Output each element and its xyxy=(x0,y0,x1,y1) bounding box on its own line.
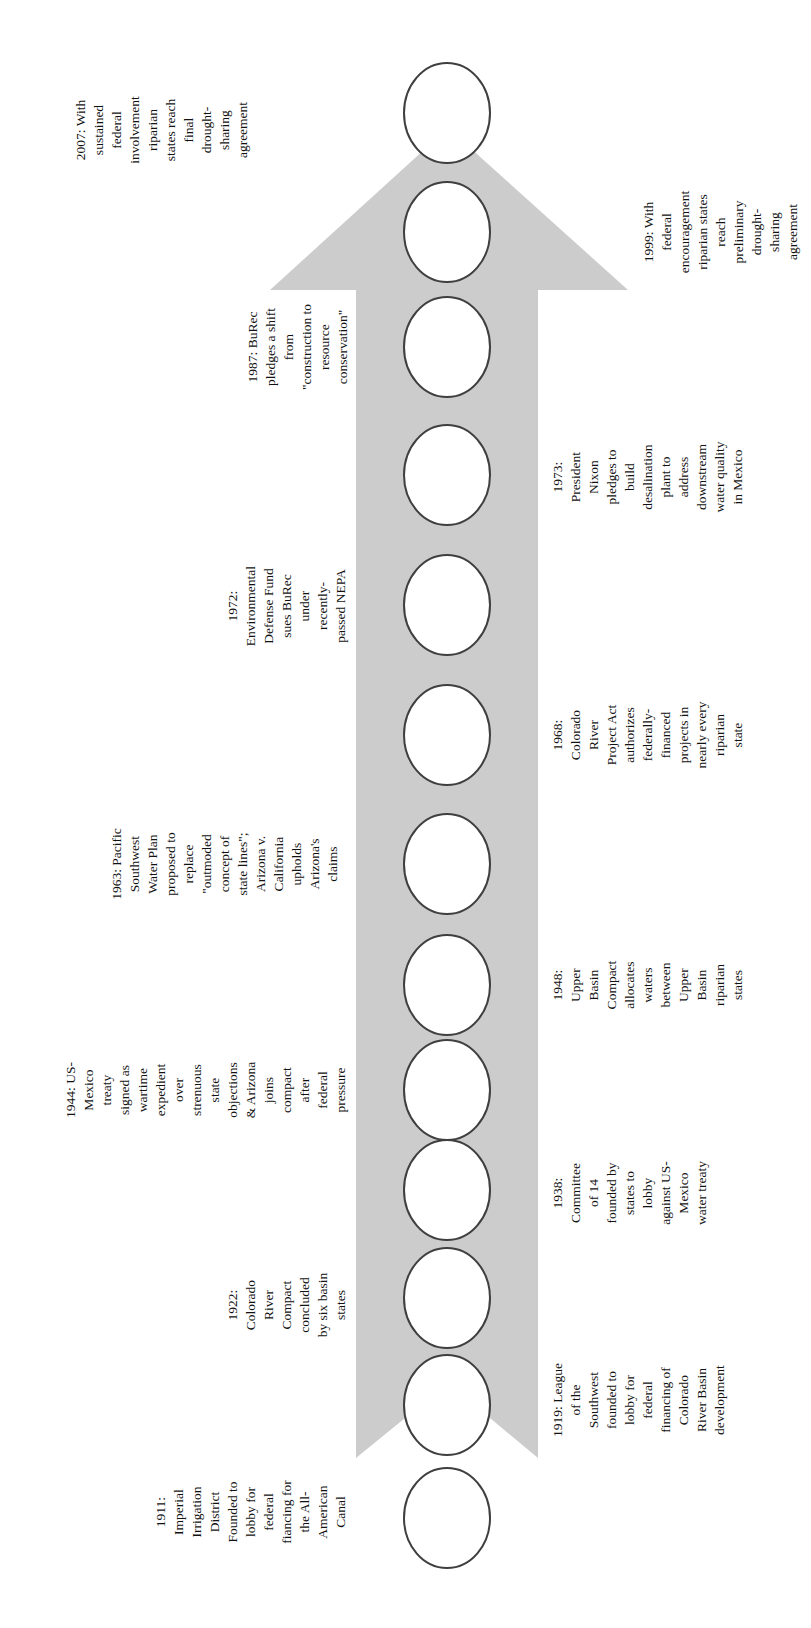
event-label-1987: 1987: BuRec pledges a shift from "constr… xyxy=(244,291,352,403)
timeline-node-circle-1919 xyxy=(404,1355,490,1455)
event-label-2007: 2007: With sustained federal involvement… xyxy=(72,75,252,185)
event-label-1999: 1999: With federal encouragement riparia… xyxy=(640,180,802,285)
event-label-1919: 1919: League of the Southwest founded to… xyxy=(549,1354,729,1446)
timeline-page: 2007: With sustained federal involvement… xyxy=(0,0,811,1628)
event-label-1938: 1938: Committee of 14 founded by states … xyxy=(549,1148,711,1238)
timeline-node-circle-2007 xyxy=(404,63,490,163)
timeline-node-circle-1973 xyxy=(404,425,490,525)
timeline-node-circle-1948 xyxy=(404,935,490,1035)
event-label-1911: 1911: Imperial Irrigation District Found… xyxy=(152,1468,350,1556)
timeline-node-circle-1922 xyxy=(404,1248,490,1348)
event-label-1948: 1948: Upper Basin Compact allocates wate… xyxy=(549,945,747,1025)
timeline-node-circle-1911 xyxy=(404,1468,490,1568)
event-label-1973: 1973: President Nixon pledges to build d… xyxy=(549,427,747,527)
event-label-1968: 1968: Colorado River Project Act authori… xyxy=(549,688,747,783)
timeline-node-circle-1987 xyxy=(404,297,490,397)
event-label-1963: 1963: Pacific Southwest Water Plan propo… xyxy=(108,817,342,912)
event-label-1972: 1972: Environmental Defense Fund sues Bu… xyxy=(224,552,350,660)
timeline-node-circle-1968 xyxy=(404,685,490,785)
timeline-node-circle-1944 xyxy=(404,1040,490,1140)
timeline-node-circle-1999 xyxy=(404,182,490,282)
timeline-node-circle-1963 xyxy=(404,814,490,914)
event-label-1944: 1944: US- Mexico treaty signed as wartim… xyxy=(62,1048,350,1133)
event-label-1922: 1922: Colorado River Compact concluded b… xyxy=(224,1259,350,1351)
timeline-node-circle-1938 xyxy=(404,1140,490,1240)
timeline-node-circle-1972 xyxy=(404,555,490,655)
